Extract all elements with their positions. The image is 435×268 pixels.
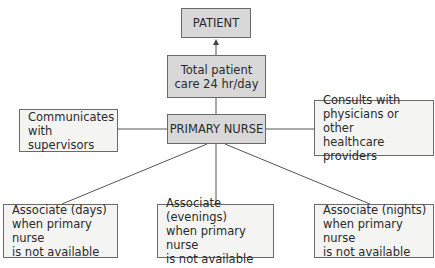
associate-nights-node: Associate (nights) when primary nurse is…: [314, 204, 434, 258]
consults-node: Consults with physicians or other health…: [314, 100, 434, 156]
total-care-label: Total patient care 24 hr/day: [175, 63, 259, 91]
total-care-node: Total patient care 24 hr/day: [167, 55, 266, 98]
edge-primary-to-associate-days: [62, 144, 207, 204]
patient-label: PATIENT: [193, 16, 239, 30]
communicates-label: Communicates with supervisors: [28, 110, 117, 152]
patient-node: PATIENT: [181, 8, 251, 38]
communicates-node: Communicates with supervisors: [19, 109, 118, 152]
primary-nurse-label: PRIMARY NURSE: [170, 122, 264, 136]
associate-evenings-node: Associate (evenings) when primary nurse …: [157, 204, 274, 258]
consults-label: Consults with physicians or other health…: [323, 93, 433, 163]
associate-nights-label: Associate (nights) when primary nurse is…: [323, 203, 433, 259]
associate-days-node: Associate (days) when primary nurse is n…: [3, 204, 118, 258]
associate-days-label: Associate (days) when primary nurse is n…: [12, 203, 117, 259]
associate-evenings-label: Associate (evenings) when primary nurse …: [166, 196, 273, 266]
primary-nurse-node: PRIMARY NURSE: [167, 114, 266, 144]
